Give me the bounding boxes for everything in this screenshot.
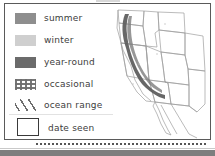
legend: summer winter year-round occasional ocea… [9,6,113,139]
legend-item-label: date seen [48,122,94,135]
legend-item-ocean-range[interactable]: ocean range [9,99,113,113]
occasional-dotted-swatch-icon [15,79,36,90]
ocean-range-hatch-swatch-icon [15,99,36,111]
figure-panel: summer winter year-round occasional ocea… [4,3,211,140]
bottom-bar [0,150,215,156]
legend-item-date-seen[interactable]: date seen [13,118,117,140]
date-seen-box-icon [17,118,39,136]
winter-swatch-icon [15,35,36,46]
map-svg [113,6,208,139]
top-notch-decoration [96,0,120,2]
legend-item-summer[interactable]: summer [9,12,113,26]
map-legend-figure: summer winter year-round occasional ocea… [0,0,215,156]
summer-swatch-icon [15,13,36,24]
legend-item-winter[interactable]: winter [9,34,113,48]
legend-separator [9,114,113,115]
bottom-dotted-rule [36,143,208,145]
legend-item-label: year-round [44,56,95,69]
legend-item-label: summer [44,12,82,25]
legend-item-label: winter [44,34,74,47]
western-united-states-map[interactable] [113,6,208,139]
legend-item-label: ocean range [44,99,102,112]
legend-item-occasional[interactable]: occasional [9,78,113,92]
year-round-swatch-icon [15,57,36,68]
legend-item-year-round[interactable]: year-round [9,56,113,70]
legend-item-label: occasional [44,78,93,91]
bottom-divider-line [0,148,215,149]
